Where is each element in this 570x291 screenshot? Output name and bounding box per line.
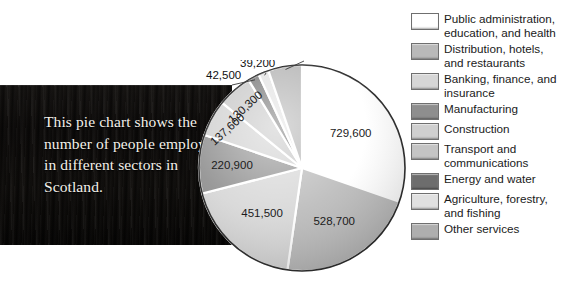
pie-value-label-manufacturing: 220,900: [211, 159, 253, 171]
legend-label-distribution-hotels: Distribution, hotels, and restaurants: [444, 42, 543, 70]
legend-swatch-distribution-hotels: [411, 43, 439, 60]
legend-swatch-agriculture-forestry: [411, 193, 439, 210]
legend-swatch-construction: [411, 123, 439, 140]
pie-chart-figure: This pie chart shows the number of peopl…: [0, 0, 570, 291]
legend-label-construction: Construction: [444, 122, 510, 136]
pie-value-label-distribution-hotels: 528,700: [313, 215, 355, 227]
legend-swatch-manufacturing: [411, 103, 439, 120]
legend-swatch-energy-water: [411, 173, 439, 190]
legend-label-energy-water: Energy and water: [444, 172, 536, 186]
legend-swatch-banking-finance: [411, 73, 439, 90]
legend-label-agriculture-forestry: Agriculture, forestry, and fishing: [444, 192, 548, 220]
legend-item-other-services[interactable]: Other services: [411, 222, 566, 240]
legend-item-construction[interactable]: Construction: [411, 122, 566, 140]
legend-item-agriculture-forestry[interactable]: Agriculture, forestry, and fishing: [411, 192, 566, 220]
legend-label-other-services: Other services: [444, 222, 519, 236]
legend-swatch-transport-communications: [411, 143, 439, 160]
legend-label-transport-communications: Transport and communications: [444, 142, 528, 170]
legend-item-transport-communications[interactable]: Transport and communications: [411, 142, 566, 170]
legend-swatch-other-services: [411, 223, 439, 240]
pie-value-label-banking-finance: 451,500: [241, 207, 283, 219]
legend-item-energy-water[interactable]: Energy and water: [411, 172, 566, 190]
pie-chart-svg: 729,600528,700451,500220,900137,600130,3…: [196, 60, 411, 280]
legend-item-banking-finance[interactable]: Banking, finance, and insurance: [411, 72, 566, 100]
pie-callout-label-agriculture-forestry: 39,200: [240, 60, 275, 69]
legend-label-banking-finance: Banking, finance, and insurance: [444, 72, 556, 100]
legend: Public administration, education, and he…: [411, 12, 566, 242]
legend-swatch-public-administration: [411, 13, 439, 30]
legend-label-public-administration: Public administration, education, and he…: [444, 12, 556, 40]
legend-item-distribution-hotels[interactable]: Distribution, hotels, and restaurants: [411, 42, 566, 70]
pie-value-label-public-administration: 729,600: [330, 127, 372, 139]
legend-item-public-administration[interactable]: Public administration, education, and he…: [411, 12, 566, 40]
legend-label-manufacturing: Manufacturing: [444, 102, 518, 116]
legend-item-manufacturing[interactable]: Manufacturing: [411, 102, 566, 120]
pie-callout-label-energy-water: 42,500: [206, 69, 241, 81]
pie-chart: 729,600528,700451,500220,900137,600130,3…: [196, 60, 411, 280]
